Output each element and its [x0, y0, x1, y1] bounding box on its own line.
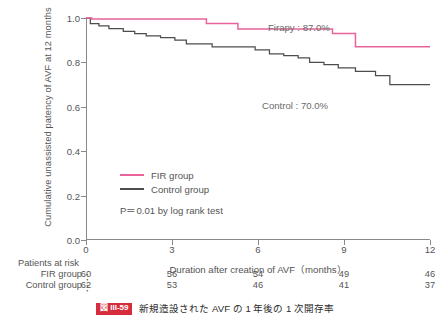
fir-line-swatch — [120, 174, 144, 176]
risk-count: 54 — [247, 269, 269, 279]
risk-row-control: Control group ： 6253464137 — [0, 280, 448, 291]
figure-caption: 図 III-59 新規造設された AVF の 1 年後の 1 次開存率 — [96, 303, 334, 315]
risk-row-label-control: Control group — [0, 280, 82, 290]
legend-item-control: Control group — [120, 182, 223, 196]
legend: FIR group Control group P＝0.01 by log ra… — [120, 168, 223, 217]
risk-count: 56 — [161, 269, 183, 279]
y-tick-label: 0.0 — [67, 235, 80, 246]
figure-caption-text: 新規造設された AVF の 1 年後の 1 次開存率 — [139, 303, 334, 314]
risk-count: 37 — [419, 280, 441, 290]
y-tick-label: 0.8 — [67, 57, 80, 68]
kaplan-meier-figure: Cumulative unassisted patency of AVF at … — [0, 0, 448, 315]
risk-count: 49 — [333, 269, 355, 279]
risk-count: 46 — [419, 269, 441, 279]
control-line-swatch — [120, 188, 144, 190]
x-tick-label: 3 — [169, 244, 174, 255]
risk-row-label-fir: FIR group — [0, 269, 82, 279]
x-tick-label: 9 — [341, 244, 346, 255]
y-tick-label: 1.0 — [67, 13, 80, 24]
risk-count: 60 — [75, 269, 97, 279]
fir-annotation: Firapy : 87.0% — [268, 22, 330, 33]
x-tick-label: 12 — [425, 244, 436, 255]
y-axis-title: Cumulative unassisted patency of AVF at … — [43, 0, 53, 237]
legend-item-fir: FIR group — [120, 168, 223, 182]
figure-number-badge: 図 III-59 — [96, 303, 132, 315]
y-tick-label: 0.2 — [67, 190, 80, 201]
legend-label-fir: FIR group — [151, 170, 194, 181]
risk-row-fir: FIR group ： 6056544946 — [0, 269, 448, 280]
legend-label-control: Control group — [151, 184, 209, 195]
risk-count: 41 — [333, 280, 355, 290]
control-annotation: Control : 70.0% — [262, 100, 328, 111]
risk-table-title: Patients at risk — [18, 258, 79, 268]
y-tick-label: 0.4 — [67, 146, 80, 157]
x-tick-label: 6 — [255, 244, 260, 255]
risk-count: 62 — [75, 280, 97, 290]
y-tick-label: 0.6 — [67, 101, 80, 112]
fir-group-curve — [86, 18, 430, 47]
x-tick-label: 0 — [83, 244, 88, 255]
control-group-curve — [86, 18, 430, 85]
risk-count: 46 — [247, 280, 269, 290]
p-value-text: P＝0.01 by log rank test — [120, 203, 223, 217]
risk-count: 53 — [161, 280, 183, 290]
